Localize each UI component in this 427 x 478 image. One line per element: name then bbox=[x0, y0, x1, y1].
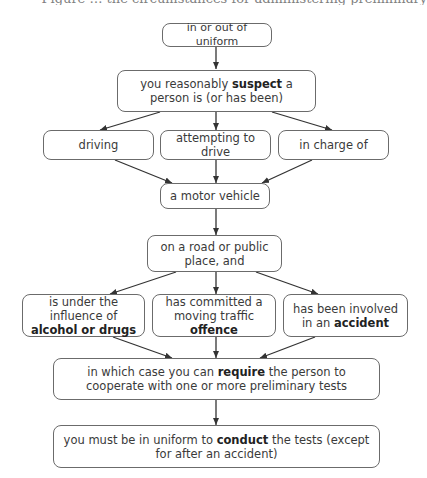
node-in-charge: in charge of bbox=[278, 130, 389, 160]
node-text: attempting to drive bbox=[167, 131, 264, 159]
node-keyword: accident bbox=[334, 316, 389, 330]
node-text: in or out of uniform bbox=[169, 21, 265, 49]
node-require: in which case you can require the person… bbox=[53, 358, 380, 400]
node-uniform-status: in or out of uniform bbox=[162, 23, 272, 47]
node-text: a motor vehicle bbox=[170, 189, 260, 203]
node-text: on a road or public place, and bbox=[154, 240, 275, 268]
node-text: driving bbox=[79, 138, 119, 152]
node-influence: is under the influence of alcohol or dru… bbox=[22, 294, 145, 337]
node-keyword: conduct bbox=[217, 433, 269, 447]
node-keyword: suspect bbox=[232, 77, 282, 91]
node-text: is under the influence of bbox=[49, 295, 118, 323]
node-text: in which case you can bbox=[87, 365, 218, 379]
node-text: in charge of bbox=[299, 138, 367, 152]
node-conduct: you must be in uniform to conduct the te… bbox=[53, 425, 380, 468]
node-attempting: attempting to drive bbox=[160, 130, 271, 160]
node-text: has committed a moving traffic bbox=[165, 295, 262, 323]
node-motor-vehicle: a motor vehicle bbox=[160, 183, 270, 209]
node-keyword: offence bbox=[190, 323, 238, 337]
node-suspect: you reasonably suspect a person is (or h… bbox=[117, 70, 316, 112]
node-road: on a road or public place, and bbox=[147, 235, 282, 272]
node-offence: has committed a moving traffic offence bbox=[152, 294, 276, 337]
node-accident: has been involved in an accident bbox=[283, 294, 408, 337]
node-driving: driving bbox=[43, 130, 154, 160]
node-text: you reasonably bbox=[140, 77, 232, 91]
node-text: you must be in uniform to bbox=[64, 433, 217, 447]
node-keyword: require bbox=[218, 365, 265, 379]
node-keyword: alcohol or drugs bbox=[31, 323, 136, 337]
